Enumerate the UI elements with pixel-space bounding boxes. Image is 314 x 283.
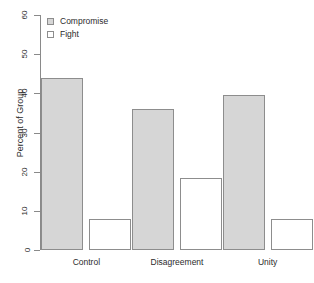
bar-control-fight: [89, 219, 131, 250]
bar-unity-compromise: [223, 95, 265, 250]
y-axis-tick: [34, 250, 40, 251]
y-axis-tick-label: 50: [0, 50, 30, 58]
legend-item-fight: Fight: [47, 29, 108, 40]
legend-item-compromise: Compromise: [47, 16, 108, 27]
y-axis-tick-label: 60: [0, 11, 30, 19]
x-axis-label-unity: Unity: [223, 258, 313, 267]
y-axis-tick: [34, 133, 40, 134]
legend-label: Fight: [60, 30, 79, 39]
y-axis-tick: [34, 211, 40, 212]
bar-control-compromise: [41, 78, 83, 250]
legend-label: Compromise: [60, 17, 108, 26]
y-axis-tick-label: 20: [0, 168, 30, 176]
y-axis-title: Percent of Group: [15, 63, 25, 183]
bar-disagreement-compromise: [132, 109, 174, 250]
y-axis-tick: [34, 54, 40, 55]
x-axis-label-control: Control: [41, 258, 131, 267]
bar-disagreement-fight: [180, 178, 222, 250]
y-axis-tick-label: 0: [0, 246, 30, 254]
bar-unity-fight: [271, 219, 313, 250]
legend: CompromiseFight: [47, 16, 108, 42]
filled-gray-square-icon: [47, 18, 54, 25]
y-axis-tick-label: 30: [0, 129, 30, 137]
y-axis-tick: [34, 15, 40, 16]
y-axis-tick-label: 40: [0, 89, 30, 97]
y-axis-tick-label: 10: [0, 207, 30, 215]
x-axis-label-disagreement: Disagreement: [132, 258, 222, 267]
plot-area: [41, 15, 313, 250]
y-axis-tick: [34, 93, 40, 94]
y-axis-tick: [34, 172, 40, 173]
empty-white-square-icon: [47, 31, 54, 38]
bar-chart: Percent of Group 0102030405060 ControlDi…: [0, 0, 314, 283]
